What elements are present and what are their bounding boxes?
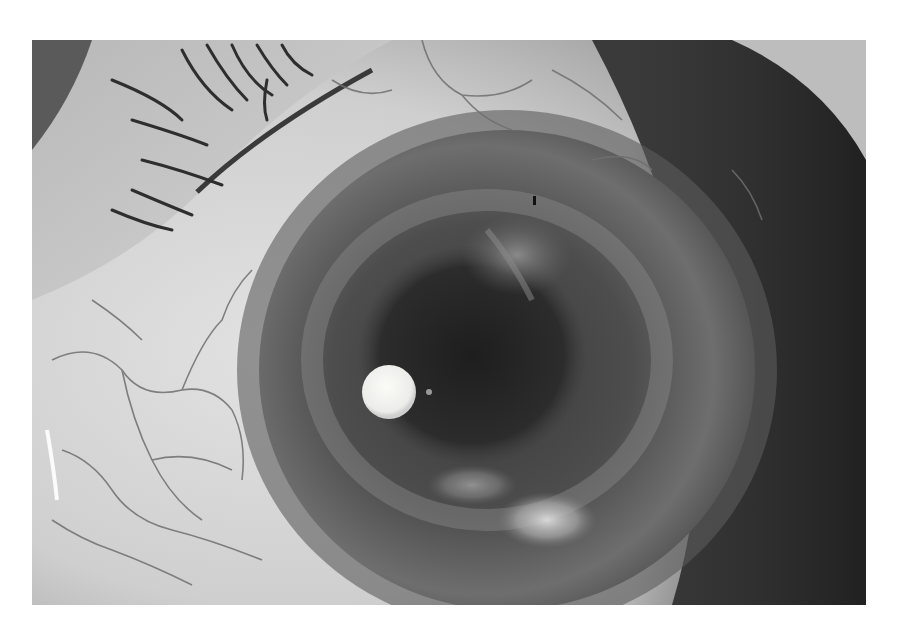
- speck: [533, 196, 536, 205]
- eye-illustration: [32, 40, 866, 605]
- eye-photograph: [32, 40, 866, 605]
- inferior-infiltrate: [497, 492, 597, 548]
- corneal-light-reflex: [362, 365, 416, 419]
- superior-opacity: [462, 215, 572, 295]
